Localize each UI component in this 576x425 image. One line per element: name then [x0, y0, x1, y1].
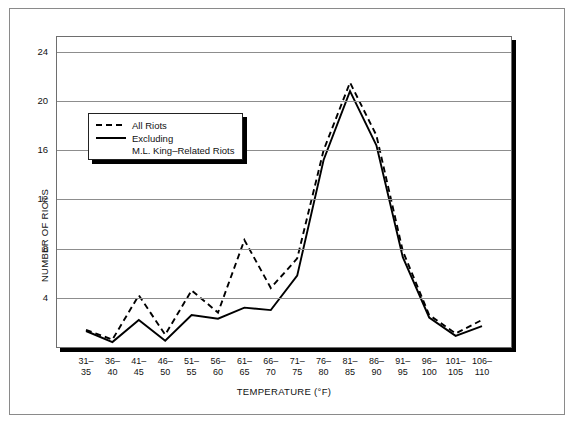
- grid-lines: [57, 37, 511, 347]
- gridline-4: [57, 298, 511, 299]
- gridline-24: [57, 52, 511, 53]
- gridline-20: [57, 101, 511, 102]
- dashed-line-swatch-icon: [96, 120, 126, 130]
- legend-label-all-riots: All Riots: [132, 120, 167, 131]
- legend-entry-all-riots: All Riots: [96, 119, 236, 131]
- x-tick-label-15: 106–110: [462, 356, 502, 378]
- legend-label-excluding: Excluding: [132, 133, 173, 144]
- y-axis-title-wrap: NUMBER OF RIOTS: [22, 80, 36, 260]
- y-tick-label-20: 20: [37, 96, 48, 106]
- chart-legend: All Riots Excluding M.L. King–Related Ri…: [88, 113, 243, 160]
- y-axis-title: NUMBER OF RIOTS: [39, 126, 50, 346]
- x-axis-title: TEMPERATURE (°F): [56, 386, 512, 397]
- x-axis-tick-labels: 31–3536–4041–4546–5051–5556–6061–6566–70…: [56, 356, 512, 382]
- chart-figure: 4812162024 NUMBER OF RIOTS All Riots Exc…: [0, 0, 576, 425]
- plot-area: [56, 36, 512, 348]
- gridline-12: [57, 199, 511, 200]
- solid-line-swatch-icon: [96, 133, 126, 143]
- y-tick-label-24: 24: [37, 47, 48, 57]
- legend-entry-excluding: Excluding: [96, 132, 236, 144]
- gridline-8: [57, 249, 511, 250]
- legend-label-excluding-sub: M.L. King–Related Riots: [132, 145, 236, 156]
